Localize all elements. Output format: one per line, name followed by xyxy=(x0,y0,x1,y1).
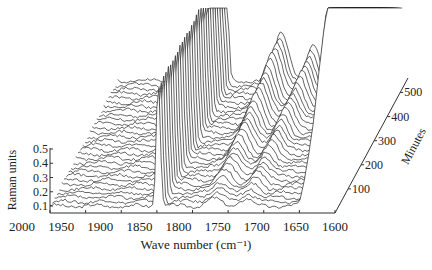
x-tick-label: 1700 xyxy=(244,219,270,234)
x-tick-label: 1850 xyxy=(126,219,152,234)
z-axis-label: Minutes xyxy=(398,125,429,167)
x-tick-label: 1900 xyxy=(87,219,113,234)
y-tick-label: 0.4 xyxy=(33,156,48,170)
z-tick-label: 500 xyxy=(404,85,422,99)
y-tick-label: 0.5 xyxy=(33,142,48,156)
z-tick-label: 200 xyxy=(365,158,383,172)
z-tick-label: 400 xyxy=(391,110,409,124)
x-tick-label: 2000 xyxy=(9,219,35,234)
y-tick-label: 0.2 xyxy=(33,185,48,199)
x-axis-label: Wave number (cm⁻¹) xyxy=(141,237,252,252)
z-tick-label: 300 xyxy=(378,134,396,148)
z-tick-label: 100 xyxy=(352,182,370,196)
x-tick-label: 1950 xyxy=(48,219,74,234)
chart-svg: 200019501900185018001750170016501600 0.1… xyxy=(0,0,432,270)
y-tick-label: 0.3 xyxy=(33,171,48,185)
spectra-traces xyxy=(50,8,403,215)
y-axis-label: Raman units xyxy=(5,150,19,211)
x-tick-label: 1750 xyxy=(205,219,231,234)
waterfall-chart: 200019501900185018001750170016501600 0.1… xyxy=(0,0,432,270)
x-tick-label: 1650 xyxy=(283,219,309,234)
y-tick-label: 0.1 xyxy=(33,199,48,213)
x-tick-label: 1800 xyxy=(166,219,192,234)
x-tick-label: 1600 xyxy=(322,219,348,234)
